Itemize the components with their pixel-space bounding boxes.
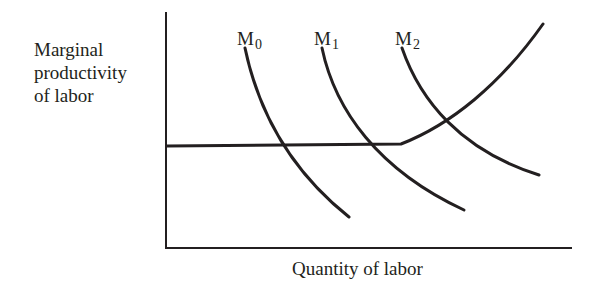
- y-axis-label-line-1: Marginal: [34, 38, 127, 61]
- curve-label-m1: M1: [314, 28, 339, 53]
- y-axis-label-line-2: productivity: [34, 61, 127, 84]
- curve-label-m0: M0: [237, 28, 262, 53]
- curve-label-subscript: 1: [332, 37, 339, 52]
- y-axis-label-line-3: of labor: [34, 84, 127, 107]
- curve-label-m2: M2: [395, 28, 420, 53]
- y-axis-label: Marginal productivity of labor: [34, 38, 127, 107]
- curve-label-subscript: 0: [255, 37, 262, 52]
- curve-m2: [402, 48, 539, 175]
- curve-label-base: M: [237, 28, 254, 49]
- curve-m1: [322, 48, 464, 210]
- curve-label-subscript: 2: [413, 37, 420, 52]
- curve-m0: [245, 48, 349, 217]
- labor-supply-curve: [167, 24, 543, 146]
- curve-label-base: M: [314, 28, 331, 49]
- curve-label-base: M: [395, 28, 412, 49]
- x-axis-label: Quantity of labor: [292, 258, 423, 280]
